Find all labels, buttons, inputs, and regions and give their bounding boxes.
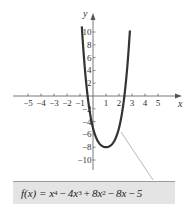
y-tick-label: 6 (87, 53, 92, 63)
operator: − (126, 187, 136, 199)
y-tick-label: −6 (82, 129, 92, 139)
term: 8x (92, 187, 102, 199)
y-axis-label: y (82, 8, 88, 19)
x-tick-label: −4 (36, 98, 46, 108)
operator: − (58, 187, 68, 199)
leader-line (121, 132, 153, 180)
y-tick-label: −10 (77, 155, 92, 165)
x-tick-label: 4 (143, 98, 148, 108)
x-tick-label: −3 (49, 98, 59, 108)
y-tick-label: 4 (87, 65, 92, 75)
x-tick-label: 2 (117, 98, 122, 108)
function-plot: −5−4−3−2−112345 108642−2−4−6−8−10 x y (0, 0, 195, 204)
y-axis-arrow-icon (91, 13, 96, 20)
formula-label: f(x) = x4 − 4x3 + 8x2 − 8x − 5 (13, 181, 175, 204)
formula-lhs: f(x) = x (21, 187, 54, 199)
x-tick-label: 1 (104, 98, 109, 108)
x-tick-label: 3 (130, 98, 135, 108)
y-tick-label: 8 (87, 40, 92, 50)
x-axis-label: x (177, 98, 183, 109)
term: 4x (68, 187, 78, 199)
y-tick-label: −8 (82, 142, 92, 152)
operator: − (106, 187, 116, 199)
x-tick-label: −2 (62, 98, 72, 108)
operator: + (82, 187, 92, 199)
term: 5 (137, 187, 143, 199)
x-tick-label: 5 (156, 98, 161, 108)
y-tick-label: 10 (83, 27, 93, 37)
x-tick-label: −5 (23, 98, 33, 108)
term: 8x (116, 187, 126, 199)
